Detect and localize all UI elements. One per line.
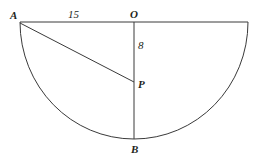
length-label-ao: 15 <box>68 9 79 20</box>
length-label-op: 8 <box>138 40 144 51</box>
point-label-a: A <box>10 10 17 21</box>
point-label-p: P <box>138 79 145 90</box>
figure-canvas <box>0 0 258 161</box>
point-label-b: B <box>131 144 138 155</box>
chord-ap-segment <box>20 23 134 82</box>
point-label-o: O <box>130 9 138 20</box>
geometry-figure: A O P B 15 8 <box>0 0 258 161</box>
